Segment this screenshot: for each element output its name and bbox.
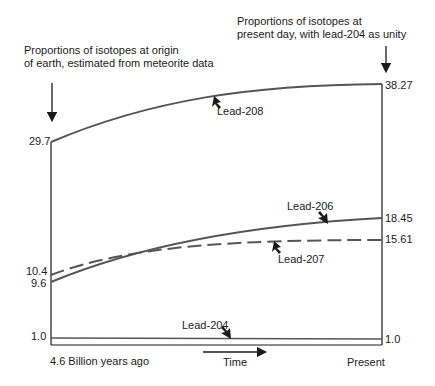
right-value-lead-206: 18.45 [385, 212, 413, 225]
left-note-line2: of earth, estimated from meteorite data [24, 57, 214, 70]
left-value-lead-204: 1.0 [31, 330, 46, 343]
right-value-lead-204: 1.0 [385, 333, 400, 346]
lead-204-line [51, 338, 382, 339]
right-value-lead-207: 15.61 [385, 233, 413, 246]
left-value-lead-208: 29.7 [29, 135, 50, 148]
x-mid-label: Time [223, 356, 247, 369]
left-note-line1: Proportions of isotopes at origin [24, 44, 179, 57]
right-value-lead-208: 38.27 [385, 79, 413, 92]
label-lead-206: Lead-206 [287, 200, 334, 213]
left-value-lead-206: 9.6 [31, 277, 46, 290]
right-note-line1: Proportions of isotopes at [237, 15, 362, 28]
x-end-label: Present [347, 356, 385, 369]
label-lead-207: Lead-207 [278, 253, 325, 266]
x-start-label: 4.6 Billion years ago [50, 355, 149, 368]
right-note-line2: present day, with lead-204 as unity [237, 28, 406, 41]
label-lead-208: Lead-208 [217, 105, 264, 118]
lead-207-line [51, 240, 382, 275]
label-lead-204: Lead-204 [182, 319, 229, 332]
lead-206-line [51, 218, 382, 282]
